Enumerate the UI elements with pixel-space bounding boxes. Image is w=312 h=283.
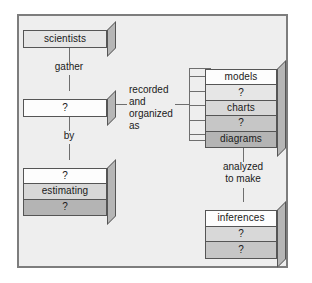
node-inferences-layer-2: ? <box>206 242 276 258</box>
node-methods-body: ? estimating ? <box>23 168 107 216</box>
node-inferences-layer-1: ? <box>206 227 276 243</box>
node-scientists[interactable]: scientists <box>23 21 116 48</box>
node-representations-layer-4: diagrams <box>206 132 276 147</box>
node-methods-layer-1: estimating <box>24 184 106 199</box>
connector-label-analyzed-to-make: analyzed to make <box>211 161 275 185</box>
node-representations[interactable]: models ? charts ? diagrams <box>205 60 286 148</box>
connector-data-to-by <box>69 117 70 131</box>
connector-label-by: by <box>41 130 97 142</box>
node-scientists-layer-0: scientists <box>24 31 106 47</box>
node-methods-side <box>107 159 116 225</box>
node-methods-layer-0: ? <box>24 169 106 184</box>
connector-scientists-to-gather <box>69 48 70 62</box>
node-inferences[interactable]: inferences ? ? <box>205 201 286 259</box>
node-data-side <box>107 90 116 126</box>
connector-gather-to-data <box>69 75 70 91</box>
node-scientists-body: scientists <box>23 30 107 48</box>
node-data-body: ? <box>23 99 107 117</box>
node-representations-side <box>277 60 286 157</box>
node-inferences-layer-0: inferences <box>206 211 276 227</box>
node-inferences-side <box>277 201 286 268</box>
connector-representations-to-analyzed <box>243 148 244 162</box>
connector-label-gather: gather <box>41 61 97 73</box>
node-data-layer-0: ? <box>24 100 106 116</box>
node-representations-layer-2: charts <box>206 101 276 116</box>
connector-data-to-recorded <box>116 104 127 105</box>
connector-recorded-to-bracket <box>175 104 189 105</box>
connector-analyzed-to-inferences <box>243 188 244 202</box>
node-methods[interactable]: ? estimating ? <box>23 159 116 216</box>
diagram-panel: scientists gather ? by ? estimating ? re… <box>17 14 288 268</box>
connector-label-recorded-organized: recorded and organized as <box>129 84 175 132</box>
connector-by-to-methods <box>69 144 70 160</box>
node-representations-layer-0: models <box>206 70 276 85</box>
node-representations-layer-1: ? <box>206 85 276 100</box>
node-methods-layer-2: ? <box>24 200 106 215</box>
node-representations-layer-3: ? <box>206 116 276 131</box>
node-data[interactable]: ? <box>23 90 116 117</box>
node-scientists-side <box>107 21 116 57</box>
node-representations-body: models ? charts ? diagrams <box>205 69 277 148</box>
node-inferences-body: inferences ? ? <box>205 210 277 259</box>
